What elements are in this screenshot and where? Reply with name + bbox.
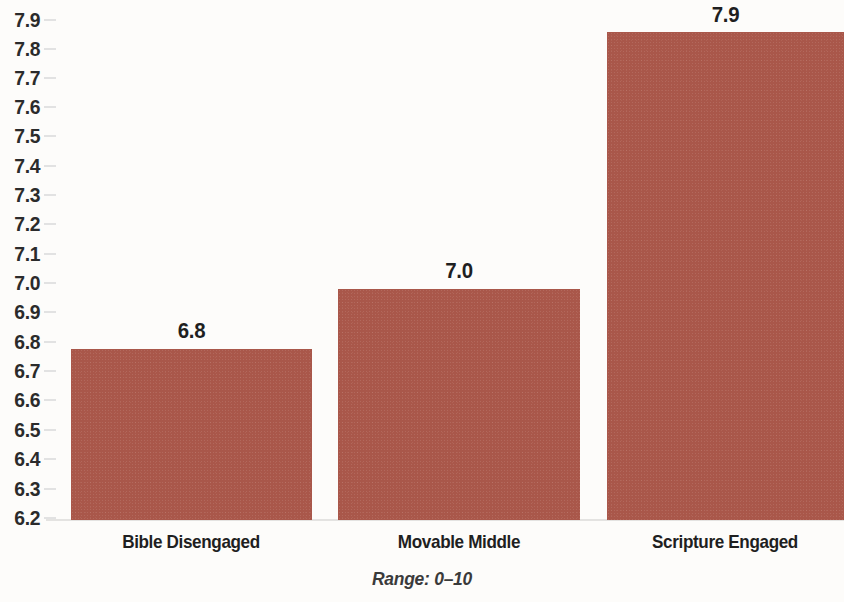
- y-axis-tick: 7.2: [0, 216, 58, 232]
- y-axis-tick-mark: [44, 399, 56, 401]
- y-axis-tick: 6.2: [0, 510, 58, 526]
- y-axis-tick-label: 6.6: [14, 392, 40, 408]
- y-axis: 7.9 7.8 7.7 7.6 7.5 7.4 7.3 7.2 7.1 7.0 …: [0, 0, 58, 520]
- y-axis-tick: 7.6: [0, 99, 58, 115]
- y-axis-tick-label: 7.3: [14, 187, 40, 203]
- bar-chart: 7.9 7.8 7.7 7.6 7.5 7.4 7.3 7.2 7.1 7.0 …: [0, 0, 844, 602]
- y-axis-tick-mark: [44, 253, 56, 255]
- y-axis-tick-label: 7.7: [14, 70, 40, 86]
- y-axis-tick-label: 6.7: [14, 363, 40, 379]
- y-axis-tick: 6.3: [0, 481, 58, 497]
- y-axis-tick: 7.8: [0, 41, 58, 57]
- y-axis-tick-mark: [44, 165, 56, 167]
- bar-scripture-engaged[interactable]: [607, 32, 844, 520]
- y-axis-tick-label: 6.3: [14, 481, 40, 497]
- y-axis-tick: 6.9: [0, 304, 58, 320]
- category-label-bible-disengaged: Bible Disengaged: [70, 531, 313, 553]
- y-axis-tick-mark: [44, 135, 56, 137]
- y-axis-tick-mark: [44, 282, 56, 284]
- y-axis-tick-mark: [44, 48, 56, 50]
- y-axis-tick-mark: [44, 106, 56, 108]
- y-axis-tick-mark: [44, 458, 56, 460]
- y-axis-tick-mark: [44, 77, 56, 79]
- y-axis-tick: 7.0: [0, 275, 58, 291]
- y-axis-tick-label: 7.1: [14, 246, 40, 262]
- y-axis-tick: 7.4: [0, 158, 58, 174]
- category-label-movable-middle: Movable Middle: [338, 531, 581, 553]
- y-axis-tick-label: 7.8: [14, 41, 40, 57]
- y-axis-tick-mark: [44, 19, 56, 21]
- y-axis-tick: 7.7: [0, 70, 58, 86]
- y-axis-tick-mark: [44, 429, 56, 431]
- category-label-scripture-engaged: Scripture Engaged: [604, 531, 844, 553]
- y-axis-tick-label: 7.9: [14, 12, 40, 28]
- y-axis-tick-label: 7.5: [14, 128, 40, 144]
- bar-bible-disengaged[interactable]: [71, 349, 312, 520]
- y-axis-tick-label: 6.8: [14, 334, 40, 350]
- y-axis-tick: 6.8: [0, 334, 58, 350]
- y-axis-tick-mark: [44, 311, 56, 313]
- bar-value-label: 7.9: [615, 2, 835, 28]
- chart-footnote: Range: 0–10: [34, 568, 810, 590]
- y-axis-tick-label: 7.6: [14, 99, 40, 115]
- y-axis-tick: 6.6: [0, 392, 58, 408]
- y-axis-tick-label: 6.2: [14, 510, 40, 526]
- y-axis-tick-mark: [44, 370, 56, 372]
- y-axis-tick: 7.1: [0, 246, 58, 262]
- y-axis-tick-mark: [44, 488, 56, 490]
- y-axis-tick-mark: [44, 341, 56, 343]
- y-axis-tick-label: 7.2: [14, 216, 40, 232]
- bar-movable-middle[interactable]: [338, 289, 580, 520]
- y-axis-tick-mark: [44, 223, 56, 225]
- bar-value-label: 7.0: [346, 258, 571, 284]
- y-axis-tick: 7.3: [0, 187, 58, 203]
- y-axis-tick-mark: [44, 194, 56, 196]
- y-axis-tick-label: 6.4: [14, 451, 40, 467]
- y-axis-tick-label: 7.4: [14, 158, 40, 174]
- y-axis-tick: 6.4: [0, 451, 58, 467]
- y-axis-tick-label: 7.0: [14, 275, 40, 291]
- y-axis-tick: 7.5: [0, 128, 58, 144]
- bar-value-label: 6.8: [79, 318, 303, 344]
- y-axis-tick: 7.9: [0, 12, 58, 28]
- y-axis-tick: 6.7: [0, 363, 58, 379]
- y-axis-tick-label: 6.5: [14, 422, 40, 438]
- y-axis-tick-label: 6.9: [14, 304, 40, 320]
- y-axis-tick: 6.5: [0, 422, 58, 438]
